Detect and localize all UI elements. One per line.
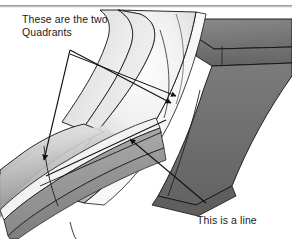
solid-body bbox=[0, 10, 292, 239]
annotation-label-quadrants: These are the two Quadrants bbox=[22, 13, 108, 38]
section-curve-mid bbox=[70, 222, 76, 239]
figure-container: These are the two Quadrants This is a li… bbox=[0, 0, 292, 239]
annotation-label-line: This is a line bbox=[197, 214, 257, 227]
page-rule bbox=[0, 5, 292, 7]
right-arm-top-face bbox=[196, 19, 292, 49]
